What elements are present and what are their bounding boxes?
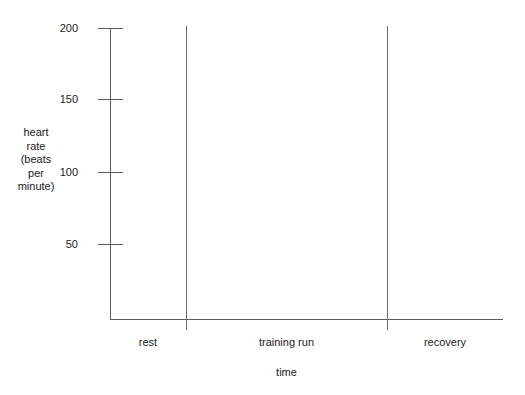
y-axis-title-line-5: minute) [6, 180, 66, 194]
y-tick-mark-50 [98, 244, 123, 245]
x-region-label-training-run: training run [186, 336, 387, 349]
phase-divider-training-recovery [387, 26, 388, 330]
y-tick-mark-150 [98, 99, 123, 100]
y-axis-title-line-1: heart [6, 126, 66, 140]
phase-divider-rest-training [186, 26, 187, 330]
y-axis-title: heart rate (beats per minute) [6, 126, 66, 194]
heart-rate-chart: 200 150 100 50 heart rate (beats per min… [0, 0, 525, 395]
y-tick-mark-200 [98, 28, 123, 29]
y-axis-title-line-2: rate [6, 140, 66, 154]
y-tick-label-200: 200 [18, 23, 78, 34]
y-tick-label-50: 50 [18, 239, 78, 250]
x-axis-title: time [186, 366, 387, 378]
y-tick-label-150: 150 [18, 94, 78, 105]
x-region-label-rest: rest [110, 336, 186, 349]
y-tick-mark-100 [98, 172, 123, 173]
y-axis-title-line-3: (beats [6, 153, 66, 167]
x-axis-line [110, 319, 503, 320]
y-axis-line [110, 28, 111, 320]
y-axis-title-line-4: per [6, 167, 66, 181]
x-region-label-recovery: recovery [387, 336, 503, 349]
